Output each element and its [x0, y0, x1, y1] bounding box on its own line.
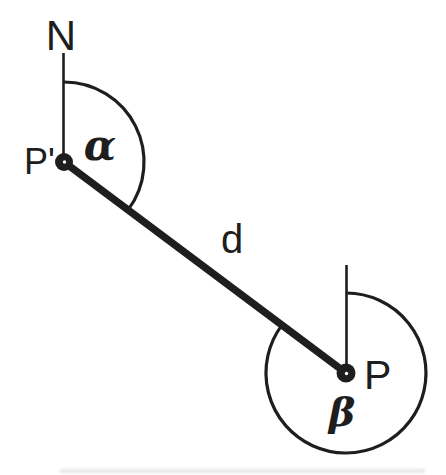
scan-artifact	[60, 469, 425, 473]
distance-label: d	[221, 217, 243, 261]
point-p-label: P	[364, 352, 391, 398]
distance-segment	[64, 162, 346, 373]
north-label: N	[46, 12, 76, 59]
beta-angle-label: β	[327, 388, 356, 435]
bearing-diagram-canvas: N P' α d P β	[0, 0, 446, 475]
point-p-prime-label: P'	[24, 141, 55, 182]
point-p-dot-center	[345, 372, 348, 375]
bearing-diagram: N P' α d P β	[0, 0, 446, 475]
point-p-prime-dot-center	[63, 160, 66, 163]
alpha-angle-label: α	[84, 121, 116, 170]
